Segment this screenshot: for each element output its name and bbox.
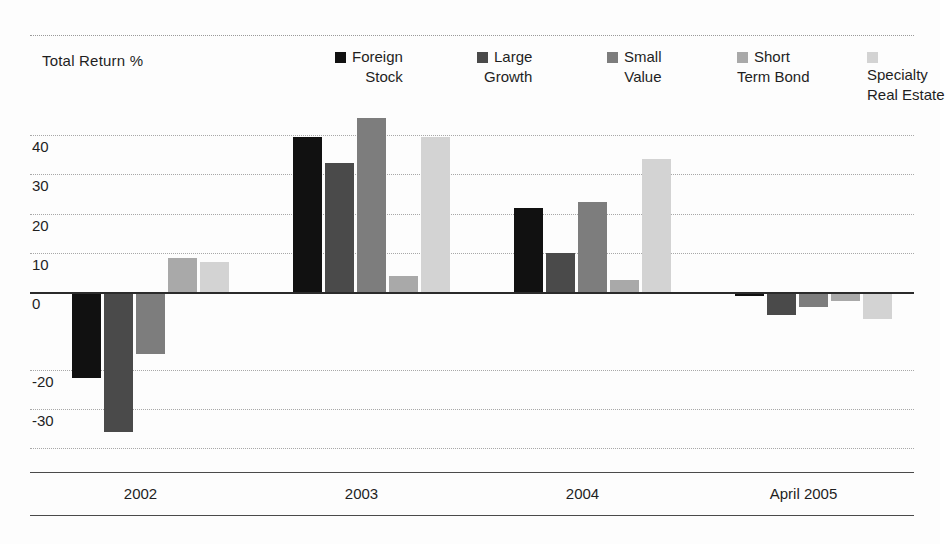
legend-label-line2: Value: [607, 68, 662, 85]
legend-label-line1: Short: [754, 48, 790, 65]
bar: [357, 118, 386, 292]
bar: [799, 292, 828, 308]
bar: [767, 292, 796, 315]
legend-swatch-icon: [867, 52, 878, 63]
legend-item[interactable]: LargeGrowth: [477, 48, 532, 85]
gridline: [30, 448, 914, 449]
bar: [136, 292, 165, 355]
zero-line: [30, 292, 914, 294]
legend-item[interactable]: ShortTerm Bond: [737, 48, 810, 85]
bar: [863, 292, 892, 319]
legend-item[interactable]: SpecialtyReal Estate: [867, 48, 945, 103]
legend-label-line1: Large: [494, 48, 532, 65]
x-axis-label: 2003: [251, 485, 472, 502]
bar: [642, 159, 671, 292]
legend-label-line1: Foreign: [352, 48, 403, 65]
top-divider: [30, 35, 914, 37]
plot-area: 403020100-20-30: [30, 108, 914, 448]
legend-label-line2: Growth: [477, 68, 532, 85]
bar: [578, 202, 607, 292]
x-axis-label: April 2005: [693, 485, 914, 502]
x-axis-band: 200220032004April 2005: [30, 472, 914, 516]
legend-item[interactable]: SmallValue: [607, 48, 662, 85]
bar: [168, 258, 197, 291]
x-axis-rule-bottom: [30, 515, 914, 516]
x-axis-label: 2002: [30, 485, 251, 502]
legend-label-line1: Specialty: [867, 66, 928, 83]
legend-label-line1: Small: [624, 48, 662, 65]
legend-label-line2: Term Bond: [737, 68, 810, 85]
legend-swatch-icon: [737, 52, 748, 63]
bar: [421, 137, 450, 291]
x-axis-rule-top: [30, 472, 914, 473]
chart-legend: ForeignStockLargeGrowthSmallValueShortTe…: [335, 48, 915, 100]
bar: [325, 163, 354, 292]
bar: [610, 280, 639, 292]
bar: [389, 276, 418, 292]
bar: [72, 292, 101, 378]
x-axis-label: 2004: [472, 485, 693, 502]
bars-group: [30, 108, 914, 448]
bar: [104, 292, 133, 433]
bar: [293, 137, 322, 291]
legend-label-line2: Real Estate: [867, 86, 945, 103]
legend-label-line2: Stock: [335, 68, 403, 85]
bar: [546, 253, 575, 292]
bar: [200, 262, 229, 291]
legend-swatch-icon: [607, 52, 618, 63]
bar: [514, 208, 543, 292]
chart-header: Total Return % ForeignStockLargeGrowthSm…: [30, 48, 914, 100]
y-axis-title: Total Return %: [42, 52, 143, 69]
legend-swatch-icon: [477, 52, 488, 63]
legend-swatch-icon: [335, 52, 346, 63]
legend-item[interactable]: ForeignStock: [335, 48, 403, 85]
